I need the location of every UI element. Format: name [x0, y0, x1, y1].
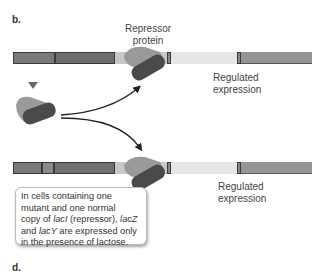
callout-line5: in the presence of lactose. [21, 237, 141, 249]
bound-repressor-protein-top-icon [124, 47, 168, 83]
regulated-bottom-line1: Regulated [218, 181, 278, 193]
callout-text: and [21, 226, 39, 236]
callout-line2: mutant and one normal [21, 203, 141, 215]
regulated-bottom-line2: expression [218, 193, 278, 205]
synthesis-arrow-icon [28, 66, 38, 89]
regulated-top-line2: expression [213, 84, 273, 96]
callout-line3: copy of lacI (repressor), lacZ [21, 214, 141, 226]
callout-text: copy of [21, 214, 53, 224]
gene-name-lacy: lacY [39, 226, 57, 236]
gene-name-laci: lacI [53, 214, 67, 224]
callout-text: are expressed only [57, 226, 137, 236]
regulated-expression-label-bottom: Regulated expression [218, 181, 278, 205]
callout-text: (repressor), [68, 214, 121, 224]
callout-line1: In cells containing one [21, 191, 141, 203]
regulated-top-line1: Regulated [213, 72, 273, 84]
binding-arrow-bottom-icon [61, 118, 140, 148]
explanation-callout: In cells containing one mutant and one n… [15, 187, 147, 245]
regulated-expression-label-top: Regulated expression [213, 72, 273, 96]
gene-name-lacz: lacZ [120, 214, 137, 224]
binding-arrow-top-icon [61, 88, 138, 115]
free-repressor-protein-icon [16, 97, 58, 127]
callout-line4: and lacY are expressed only [21, 226, 141, 238]
